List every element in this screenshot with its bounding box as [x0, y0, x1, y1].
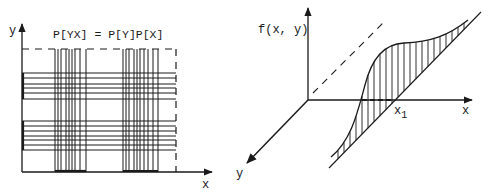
left-y-axis-label: y — [9, 24, 16, 38]
left-figure-independence-diagram: y x P[YX] = P[Y]P[X] — [9, 24, 212, 192]
f-axis-label: f(x, y) — [258, 23, 308, 37]
right-y-axis — [247, 100, 308, 163]
s-curve-function — [331, 20, 468, 157]
right-y-axis-label: y — [236, 167, 243, 181]
right-x-axis-label: x — [462, 104, 469, 118]
diagram-canvas: y x P[YX] = P[Y]P[X] f(x, y) x y x1 — [0, 0, 491, 195]
independence-formula-title: P[YX] = P[Y]P[X] — [53, 28, 163, 41]
upper-dashed-diagonal — [313, 20, 386, 93]
right-figure-3d-function-plot: f(x, y) x y x1 — [236, 8, 481, 181]
x1-label: x1 — [394, 104, 407, 121]
left-x-axis-label: x — [202, 178, 209, 192]
vertical-line-bands — [55, 49, 158, 172]
